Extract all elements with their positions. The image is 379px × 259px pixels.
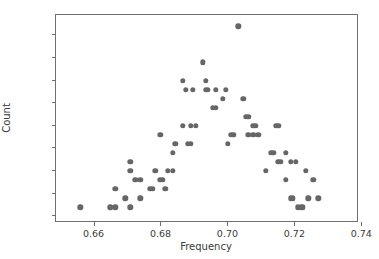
- scatter-plot-figure: 0.02.55.07.510.012.515.017.520.0 0.660.6…: [0, 0, 379, 259]
- x-tick-label: 0.66: [83, 228, 104, 239]
- x-tick-mark: [227, 222, 228, 226]
- x-tick-mark: [160, 222, 161, 226]
- x-tick-label: 0.74: [351, 228, 372, 239]
- y-axis-label: Count: [1, 103, 12, 133]
- x-tick-label: 0.72: [284, 228, 305, 239]
- x-tick-label: 0.70: [217, 228, 238, 239]
- x-axis-label: Frequency: [180, 241, 232, 252]
- x-tick-mark: [294, 222, 295, 226]
- x-tick-mark: [361, 222, 362, 226]
- x-axis: 0.660.680.700.720.74: [0, 0, 379, 259]
- x-tick-label: 0.68: [150, 228, 171, 239]
- x-tick-mark: [94, 222, 95, 226]
